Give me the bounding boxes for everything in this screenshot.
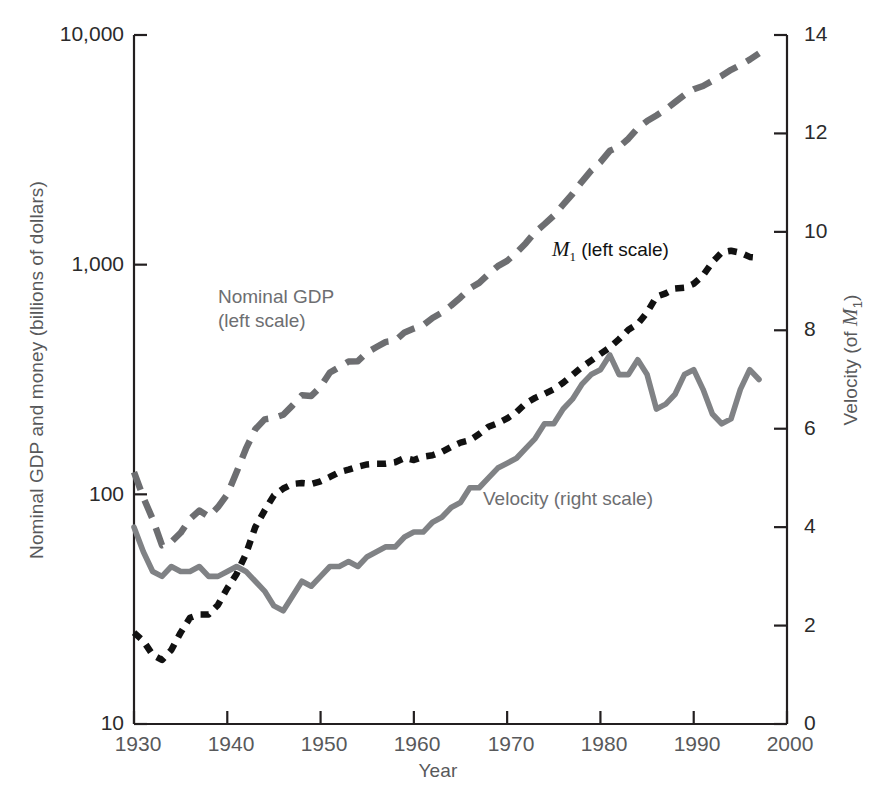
right-axis-ticks: [774, 35, 787, 724]
x-axis-ticks: [134, 711, 787, 724]
xtick-1970: 1970: [469, 732, 553, 756]
y-axis-right-title: Velocity (of M1): [838, 160, 865, 560]
y-axis-right-title-prefix: Velocity (of: [840, 326, 861, 426]
xtick-1940: 1940: [189, 732, 273, 756]
ytick-right-14: 14: [804, 22, 827, 46]
xtick-2000: 2000: [748, 732, 832, 756]
ytick-right-6: 6: [804, 416, 816, 440]
x-axis-title: Year: [0, 760, 876, 782]
xtick-1950: 1950: [282, 732, 366, 756]
annotation-m1: M1 (left scale): [552, 236, 669, 265]
y-axis-right-title-var: M: [838, 308, 862, 326]
ytick-right-4: 4: [804, 514, 816, 538]
xtick-1960: 1960: [375, 732, 459, 756]
series-line-velocity: [134, 355, 759, 611]
annotation-nominal-gdp-line2: (left scale): [218, 309, 334, 333]
y-axis-right-title-suffix: ): [840, 295, 861, 301]
annotation-m1-var: M: [552, 237, 570, 261]
y-axis-right-title-sub: 1: [850, 301, 865, 308]
ytick-right-12: 12: [804, 120, 827, 144]
xtick-1930: 1930: [96, 732, 180, 756]
xtick-1990: 1990: [655, 732, 739, 756]
y-axis-left-title: Nominal GDP and money (billions of dolla…: [26, 90, 48, 650]
xtick-1980: 1980: [562, 732, 646, 756]
annotation-nominal-gdp-line1: Nominal GDP: [218, 285, 334, 309]
ytick-right-8: 8: [804, 317, 816, 341]
ytick-right-10: 10: [804, 219, 827, 243]
chart-plot-area: [0, 0, 876, 800]
left-axis-ticks: [134, 35, 147, 724]
annotation-m1-rest: (left scale): [576, 239, 669, 260]
axis-lines: [134, 35, 787, 724]
chart-figure: 10,000 1,000 100 10 14 12 10 8 6 4 2 0 1…: [0, 0, 876, 800]
ytick-left-10000: 10,000: [12, 22, 124, 46]
annotation-velocity: Velocity (right scale): [483, 487, 653, 511]
annotation-nominal-gdp: Nominal GDP (left scale): [218, 285, 334, 334]
ytick-right-2: 2: [804, 613, 816, 637]
